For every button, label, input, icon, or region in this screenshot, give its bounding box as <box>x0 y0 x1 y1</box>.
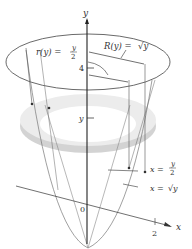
x-tick-label: 2 <box>152 229 157 238</box>
point-right-inner <box>128 167 131 170</box>
y-tick-label: 4 <box>79 64 84 73</box>
outer-vertical-left <box>26 48 32 104</box>
inner-radius-arrow <box>89 75 128 82</box>
y-axis-arrow <box>85 18 89 24</box>
x-axis-arrow <box>164 222 172 227</box>
point-left-outer <box>31 103 34 106</box>
outer-radius-label: R(y) = <box>103 41 132 51</box>
parabola-rhs: √y <box>168 184 178 193</box>
parabola-label: x = <box>150 184 164 193</box>
y-axis-label: y <box>82 8 89 18</box>
inner-radius-num: y <box>71 44 77 52</box>
point-left-inner <box>48 107 51 110</box>
inner-radius-label: r(y) = <box>36 47 61 57</box>
slice-y-label: y <box>78 114 84 123</box>
point-right-outer <box>144 171 147 174</box>
parabola-label-leader <box>123 184 138 187</box>
outer-label-leader <box>121 50 126 58</box>
washer-method-figure: y x 0 4 2 y r(y) = y 2 R(y) = √y x = y 2… <box>0 0 192 249</box>
line-num: y <box>170 160 176 168</box>
line-label-leader <box>108 170 138 171</box>
line-den: 2 <box>170 169 174 177</box>
outer-radius-arrow <box>89 52 144 64</box>
line-label: x = <box>150 165 164 174</box>
outer-radius-rhs: √y <box>138 41 148 51</box>
washer-ring <box>20 94 156 153</box>
inner-radius-den: 2 <box>71 53 75 61</box>
origin-label: 0 <box>80 205 85 214</box>
inner-label-leader <box>88 62 108 75</box>
x-axis <box>16 186 170 226</box>
x-axis-label: x <box>176 222 181 232</box>
